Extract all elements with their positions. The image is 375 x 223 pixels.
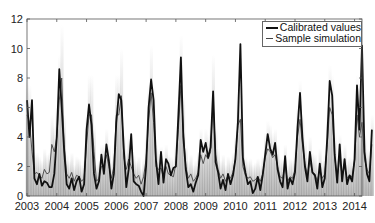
y-tick-label: 12 xyxy=(11,13,23,25)
legend-swatch-calibrated xyxy=(266,27,278,29)
x-tick-label: 2012 xyxy=(283,200,307,212)
x-tick-label: 2009 xyxy=(193,200,217,212)
legend: Calibrated values Sample simulation xyxy=(262,21,362,47)
y-tick-label: 4 xyxy=(17,131,23,143)
x-tick-label: 2008 xyxy=(164,200,188,212)
legend-label-simulation: Sample simulation xyxy=(275,33,361,44)
legend-swatch-simulation xyxy=(266,38,273,39)
x-tick-label: 2011 xyxy=(253,200,277,212)
y-tick-label: 0 xyxy=(17,190,23,202)
y-tick-label: 8 xyxy=(17,72,23,84)
x-tick-label: 2014 xyxy=(342,200,366,212)
y-tick-label: 2 xyxy=(17,161,23,173)
legend-item-simulation: Sample simulation xyxy=(263,33,361,44)
y-tick-label: 6 xyxy=(17,102,23,114)
ensemble-band xyxy=(26,25,374,196)
y-tick-label: 10 xyxy=(11,43,23,55)
x-tick-label: 2013 xyxy=(313,200,337,212)
x-tick-label: 2004 xyxy=(45,200,69,212)
x-tick-label: 2010 xyxy=(223,200,247,212)
x-tick-label: 2005 xyxy=(74,200,98,212)
chart-container: 2003200420052006200720082009201020112012… xyxy=(0,0,375,223)
x-tick-label: 2006 xyxy=(104,200,128,212)
x-tick-label: 2007 xyxy=(134,200,158,212)
